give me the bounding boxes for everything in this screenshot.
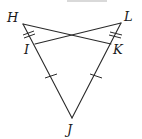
label-j: J: [64, 122, 73, 137]
double-tick-lk: [109, 32, 122, 38]
single-tick-kj: [90, 74, 102, 78]
label-l: L: [123, 9, 133, 24]
segment-hk: [23, 24, 111, 44]
label-h: H: [6, 10, 19, 25]
label-i: I: [23, 42, 30, 57]
segment-li: [35, 23, 121, 44]
segment-hj: [23, 24, 72, 118]
geometry-diagram: H L I K J: [0, 0, 142, 139]
top-edge-bar: [67, 0, 107, 2]
label-k: K: [112, 42, 124, 57]
